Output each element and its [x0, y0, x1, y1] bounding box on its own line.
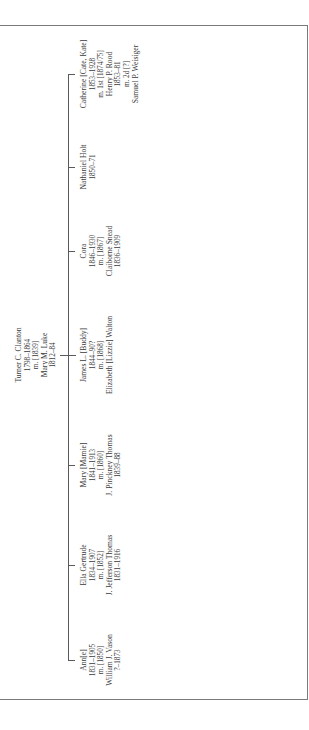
- child-name: Ella Gertrude: [80, 530, 89, 600]
- child-name: Ann[e]: [80, 628, 89, 692]
- child-node-nathaniel: Nathaniel Holt 1850–71: [80, 137, 97, 197]
- child-node-ann: Ann[e] 1831–1905 m. [1850] William J. Va…: [80, 628, 123, 692]
- frame-top-border: [0, 25, 308, 26]
- child-name: James L. [Buddy]: [80, 315, 89, 395]
- parent-node: Turner C. Clanton 1798–1864 m. [1839] Ma…: [15, 315, 58, 395]
- tick-catherine: [68, 74, 75, 75]
- child-dates: 1846–1930: [89, 219, 98, 283]
- child-spouse: J. Pinckney Thomas: [106, 430, 115, 500]
- child-dates: 1841–1913: [89, 430, 98, 500]
- sibling-bracket-line: [68, 74, 69, 661]
- child-spouse-2: Samuel P. Weisiger: [132, 34, 141, 114]
- child-node-ella: Ella Gertrude 1834–1907 m. [1852] J. Jef…: [80, 530, 123, 600]
- tick-james: [68, 355, 75, 356]
- frame-right-border: [307, 25, 308, 700]
- parent-name: Turner C. Clanton: [15, 315, 24, 395]
- child-spouse: William J. Vason: [106, 628, 115, 692]
- child-name: Catherine [Cate, Kate]: [80, 34, 89, 114]
- child-dates: 1844–90?: [89, 315, 98, 395]
- child-dates: 1834–1907: [89, 530, 98, 600]
- child-spouse-dates: 1836–1909: [114, 219, 123, 283]
- tick-ann: [68, 660, 75, 661]
- child-dates: 1831–1905: [89, 628, 98, 692]
- tick-ella: [68, 565, 75, 566]
- tick-cora: [68, 251, 75, 252]
- child-spouse: J. Jefferson Thomas: [106, 530, 115, 600]
- tick-nathaniel: [68, 167, 75, 168]
- child-name: Cora: [80, 219, 89, 283]
- child-dates: 1850–71: [89, 137, 98, 197]
- child-spouse: Henry P. Rood: [106, 34, 115, 114]
- frame-bottom-border: [0, 699, 308, 700]
- child-spouse-dates: ?–1873: [114, 628, 123, 692]
- child-spouse-dates: 1831–1916: [114, 530, 123, 600]
- child-name: Mary [Mamie]: [80, 430, 89, 500]
- child-dates: 1853–1928: [89, 34, 98, 114]
- spouse-name: Mary M. Luke: [41, 315, 50, 395]
- child-spouse: Claiborne Snead: [106, 219, 115, 283]
- child-spouse-dates: 1839–88: [114, 430, 123, 500]
- tick-mary: [68, 465, 75, 466]
- child-node-cora: Cora 1846–1930 m. [1867] Claiborne Snead…: [80, 219, 123, 283]
- child-spouse-dates: 1853–81: [114, 34, 123, 114]
- child-node-mary: Mary [Mamie] 1841–1913 m. [1860] J. Pinc…: [80, 430, 123, 500]
- child-name: Nathaniel Holt: [80, 137, 89, 197]
- parent-dates: 1798–1864: [24, 315, 33, 395]
- child-node-james: James L. [Buddy] 1844–90? m. [1868] Eliz…: [80, 315, 114, 395]
- child-node-catherine: Catherine [Cate, Kate] 1853–1928 m. 1st …: [80, 34, 140, 114]
- spouse-dates: 1812–84: [49, 315, 58, 395]
- child-spouse: Elizabeth [Lizzie] Walton: [106, 315, 115, 395]
